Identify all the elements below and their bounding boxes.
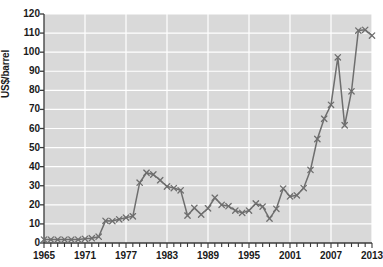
x-axis-ticks bbox=[44, 243, 372, 248]
